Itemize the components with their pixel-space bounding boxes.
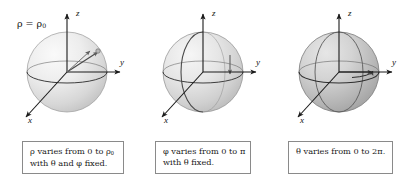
caption-theta: θ varies from 0 to 2π. <box>288 141 393 174</box>
axis-label-x: x <box>28 115 32 125</box>
caption-rho-line-2: with θ and φ fixed. <box>30 158 117 169</box>
caption-theta-line-1: θ varies from 0 to 2π. <box>296 146 386 157</box>
axis-label-z: z <box>76 8 80 18</box>
axis-label-x: x <box>300 115 304 125</box>
axis-label-z: z <box>212 8 216 18</box>
rho-equals-rho0-label: ρ = ρ0 <box>17 18 46 29</box>
caption-phi: φ varies from 0 to π with θ fixed. <box>155 141 251 174</box>
caption-rho: ρ varies from 0 to ρ0 with θ and φ fixed… <box>22 141 124 174</box>
rho-ray-endpoint <box>96 49 100 53</box>
axis-label-y: y <box>120 57 124 67</box>
caption-phi-line-2: with θ fixed. <box>163 157 244 168</box>
caption-phi-line-1: φ varies from 0 to π <box>163 146 244 157</box>
sphere-diagram-phi <box>136 0 272 140</box>
axis-label-y: y <box>392 57 396 67</box>
sphere-diagram-theta <box>272 0 408 140</box>
caption-rho-line-1: ρ varies from 0 to ρ0 <box>30 146 117 158</box>
axis-label-z: z <box>348 8 352 18</box>
spherical-coordinates-figure: ρ = ρ0 z y x <box>0 0 408 179</box>
axis-label-y: y <box>256 57 260 67</box>
axis-label-x: x <box>164 115 168 125</box>
